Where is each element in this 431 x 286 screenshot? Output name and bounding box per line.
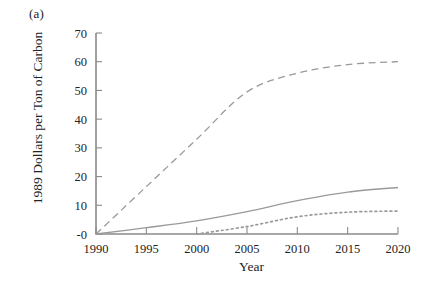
x-tick-label: 1990 (84, 242, 109, 256)
plot-area: -010203040506070199019952000200520102015… (0, 0, 431, 286)
x-tick-label: 2000 (184, 242, 209, 256)
y-tick-label: -0 (77, 228, 87, 242)
y-tick-label: 20 (75, 170, 88, 184)
y-tick-label: 60 (75, 55, 88, 69)
y-tick-label: 30 (75, 141, 88, 155)
series-dashed-upper (96, 62, 398, 234)
y-tick-label: 10 (75, 199, 88, 213)
x-tick-label: 2020 (386, 242, 411, 256)
x-tick-label: 2010 (285, 242, 310, 256)
axes (96, 33, 398, 234)
figure-panel-a: (a) 1989 Dollars per Ton of Carbon Year … (0, 0, 431, 286)
axis-spine (96, 33, 398, 234)
tick-labels: -010203040506070199019952000200520102015… (75, 27, 411, 257)
y-tick-label: 40 (75, 113, 88, 127)
data-series (96, 62, 398, 234)
x-tick-label: 2015 (335, 242, 360, 256)
tick-marks (96, 33, 398, 234)
y-tick-label: 70 (75, 27, 88, 41)
y-tick-label: 50 (75, 84, 88, 98)
x-tick-label: 2005 (235, 242, 260, 256)
x-tick-label: 1995 (134, 242, 159, 256)
